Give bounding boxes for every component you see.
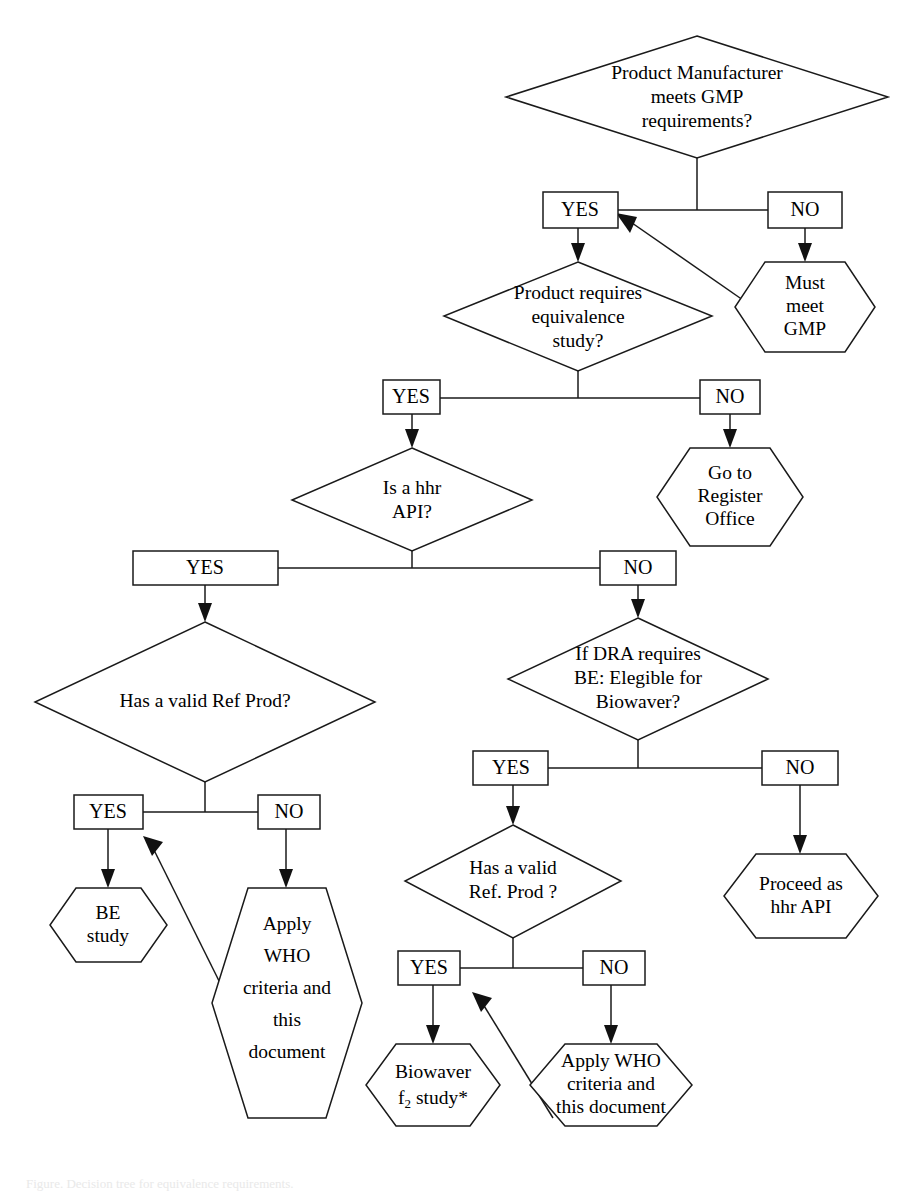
- arrowhead-hhr: [405, 429, 419, 448]
- apply-who-right-line-2: criteria and: [567, 1073, 655, 1094]
- biowaver-q-line-2: BE: Elegible for: [574, 667, 702, 688]
- arrowhead-refleftyes-feedback: [143, 836, 163, 856]
- must-meet-gmp-line-1: Must: [785, 272, 826, 293]
- go-to-register-line-1: Go to: [708, 462, 752, 483]
- equivalence-line-2: equivalence: [531, 306, 624, 327]
- arrowhead-biowaverf2: [426, 1025, 440, 1044]
- node-biowaver-yes[interactable]: YES: [473, 751, 548, 785]
- apply-who-left-line-2: WHO: [264, 945, 311, 966]
- node-ref-left-no[interactable]: NO: [258, 795, 320, 829]
- apply-who-left-line-1: Apply: [263, 913, 312, 934]
- ref-prod-left-line-1: Has a valid Ref Prod?: [119, 690, 290, 711]
- hhr-line-2: API?: [392, 501, 432, 522]
- node-apply-who-right[interactable]: Apply WHO criteria and this document: [530, 1044, 692, 1126]
- diamond-shape: [292, 448, 532, 551]
- must-meet-gmp-line-2: meet: [786, 295, 824, 316]
- node-ref-right-no[interactable]: NO: [583, 951, 645, 985]
- equivalence-line-3: study?: [553, 330, 604, 351]
- go-to-register-line-2: Register: [698, 485, 763, 506]
- biowaver-yes-label: YES: [492, 756, 530, 778]
- be-study-line-1: BE: [96, 902, 121, 923]
- biowaver-f2-tail: study*: [411, 1087, 468, 1108]
- biowaver-q-line-3: Biowaver?: [596, 691, 680, 712]
- arrowhead-register: [723, 429, 737, 448]
- gmp-yes-label: YES: [561, 198, 599, 220]
- node-gmp-question[interactable]: Product Manufacturer meets GMP requireme…: [506, 36, 888, 158]
- equivalence-no-label: NO: [716, 385, 745, 407]
- hhr-line-1: Is a hhr: [383, 477, 442, 498]
- node-gmp-yes[interactable]: YES: [543, 192, 618, 228]
- gmp-question-line-1: Product Manufacturer: [611, 62, 783, 83]
- node-ref-prod-right-question[interactable]: Has a valid Ref. Prod ?: [405, 825, 621, 938]
- hhr-no-label: NO: [624, 556, 653, 578]
- arrowhead-refright: [506, 806, 520, 825]
- ref-right-yes-label: YES: [410, 956, 448, 978]
- gmp-no-label: NO: [791, 198, 820, 220]
- figure-caption: Figure. Decision tree for equivalence re…: [0, 1177, 907, 1190]
- node-must-meet-gmp[interactable]: Must meet GMP: [735, 262, 875, 352]
- ref-prod-right-line-1: Has a valid: [469, 857, 557, 878]
- be-study-line-2: study: [87, 925, 130, 946]
- flowchart-canvas: Product Manufacturer meets GMP requireme…: [0, 0, 907, 1193]
- node-gmp-no[interactable]: NO: [768, 192, 842, 228]
- node-equivalence-no[interactable]: NO: [700, 380, 760, 414]
- node-equivalence-question[interactable]: Product requires equivalence study?: [444, 262, 712, 371]
- equivalence-yes-label: YES: [392, 385, 430, 407]
- apply-who-right-line-3: this document: [556, 1096, 667, 1117]
- node-be-study[interactable]: BE study: [50, 888, 167, 962]
- must-meet-gmp-line-3: GMP: [784, 318, 826, 339]
- arrowhead-applywholeft: [279, 869, 293, 888]
- ref-left-yes-label: YES: [89, 800, 127, 822]
- arrowhead-proceed: [793, 835, 807, 854]
- arrowhead-bestudy: [101, 869, 115, 888]
- node-hhr-no[interactable]: NO: [600, 551, 676, 585]
- ref-left-no-label: NO: [275, 800, 304, 822]
- node-ref-left-yes[interactable]: YES: [74, 795, 143, 829]
- gmp-question-line-2: meets GMP: [651, 86, 744, 107]
- arrowhead-mustmeet: [798, 243, 812, 262]
- flowchart-svg: Product Manufacturer meets GMP requireme…: [0, 0, 907, 1193]
- node-biowaver-f2[interactable]: Biowaver f2 study*: [366, 1044, 500, 1126]
- node-ref-right-yes[interactable]: YES: [398, 951, 460, 985]
- node-proceed-hhr[interactable]: Proceed as hhr API: [724, 854, 878, 938]
- node-biowaver-no[interactable]: NO: [762, 751, 838, 785]
- proceed-hhr-line-1: Proceed as: [759, 873, 843, 894]
- apply-who-left-line-5: document: [249, 1041, 326, 1062]
- node-hhr-yes[interactable]: YES: [133, 551, 278, 585]
- apply-who-left-line-3: criteria and: [243, 977, 331, 998]
- ref-right-no-label: NO: [600, 956, 629, 978]
- go-to-register-line-3: Office: [705, 508, 754, 529]
- arrowhead-refrightyes-feedback: [472, 992, 492, 1012]
- arrowhead-refleft: [198, 603, 212, 622]
- node-biowaver-question[interactable]: If DRA requires BE: Elegible for Biowave…: [508, 618, 768, 740]
- node-ref-prod-left-question[interactable]: Has a valid Ref Prod?: [35, 622, 375, 782]
- arrowhead-equiv: [571, 243, 585, 262]
- arrowhead-applywhoright: [604, 1025, 618, 1044]
- node-hhr-question[interactable]: Is a hhr API?: [292, 448, 532, 551]
- arrowhead-biowaverq: [631, 599, 645, 618]
- arrowhead-gmpyes-feedback: [616, 213, 637, 233]
- node-equivalence-yes[interactable]: YES: [383, 380, 440, 414]
- node-apply-who-left[interactable]: Apply WHO criteria and this document: [212, 888, 362, 1118]
- hhr-yes-label: YES: [186, 556, 224, 578]
- biowaver-q-line-1: If DRA requires: [575, 643, 701, 664]
- figure-caption-strip: Figure. Decision tree for equivalence re…: [0, 1177, 907, 1193]
- equivalence-line-1: Product requires: [514, 282, 642, 303]
- gmp-question-line-3: requirements?: [642, 110, 752, 131]
- ref-prod-right-line-2: Ref. Prod ?: [469, 881, 557, 902]
- proceed-hhr-line-2: hhr API: [770, 896, 831, 917]
- biowaver-f2-line-1: Biowaver: [395, 1061, 471, 1082]
- apply-who-right-line-1: Apply WHO: [561, 1050, 661, 1071]
- apply-who-left-line-4: this: [273, 1009, 301, 1030]
- hexagon-shape: [366, 1044, 500, 1126]
- node-go-to-register[interactable]: Go to Register Office: [657, 448, 803, 546]
- biowaver-no-label: NO: [786, 756, 815, 778]
